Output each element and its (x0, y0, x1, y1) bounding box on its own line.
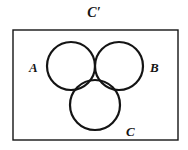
set-circle-a (47, 42, 95, 90)
venn-diagram-canvas (0, 0, 188, 150)
set-circle-b (95, 42, 143, 90)
universal-set-label: C′ (0, 6, 188, 20)
set-circle-c (70, 80, 120, 130)
venn-diagram-figure: C′ A B C (0, 0, 188, 150)
set-label-b: B (150, 61, 159, 74)
set-label-c: C (126, 125, 135, 138)
universal-set-rectangle (13, 30, 178, 140)
set-label-a: A (29, 61, 38, 74)
